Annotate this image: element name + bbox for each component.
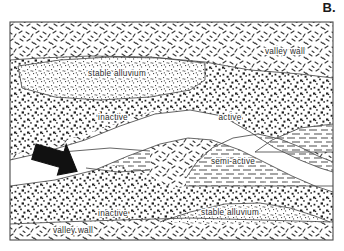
label-active-text: active: [219, 113, 242, 122]
label-inactive-top-text: inactive: [98, 113, 128, 122]
floodplain-cross-section-diagram: valley wall valley wall stable alluvium …: [0, 0, 344, 251]
label-stable-alluvium-bottom-text: stable alluvium: [201, 208, 259, 217]
label-inactive-top: inactive inactive: [98, 113, 128, 122]
label-semi-active-text: semi-active: [211, 157, 255, 166]
label-stable-alluvium-top-text: stable alluvium: [88, 69, 146, 78]
label-stable-alluvium-top: stable alluvium stable alluvium: [88, 69, 146, 78]
label-valley-wall-top: valley wall valley wall: [265, 47, 305, 56]
label-inactive-bottom-text: inactive: [98, 209, 128, 218]
label-inactive-bottom: inactive inactive: [98, 209, 128, 218]
label-stable-alluvium-bottom: stable alluvium stable alluvium: [201, 208, 259, 217]
label-valley-wall-bottom: valley wall valley wall: [53, 226, 93, 235]
label-valley-wall-bottom-text: valley wall: [53, 226, 93, 235]
label-valley-wall-top-text: valley wall: [265, 47, 305, 56]
figure-panel-b: B.: [0, 0, 344, 251]
label-active: active active: [219, 113, 242, 122]
label-semi-active: semi-active semi-active: [211, 157, 255, 166]
